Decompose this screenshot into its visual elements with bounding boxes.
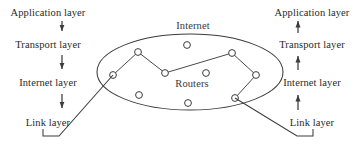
router-node-r4 xyxy=(162,70,169,77)
router-node-r5 xyxy=(203,70,210,77)
router-node-r6 xyxy=(229,50,236,57)
router-link-r7-r8 xyxy=(235,75,256,98)
routers-label: Routers xyxy=(175,78,208,90)
left-layer-4: Link layer xyxy=(26,117,70,129)
internet-label: Internet xyxy=(176,20,209,32)
router-link-r4-r6 xyxy=(165,53,232,73)
right-layer-2: Transport layer xyxy=(279,39,345,51)
router-link-r1-r2 xyxy=(113,52,138,75)
left-layer-1: Application layer xyxy=(11,7,86,19)
router-link-lines xyxy=(113,52,256,98)
network-layer-diagram: Application layerTransport layerInternet… xyxy=(0,0,360,144)
router-nodes xyxy=(110,42,260,107)
router-node-r7 xyxy=(253,72,260,79)
router-node-r3 xyxy=(184,42,191,49)
router-node-r2 xyxy=(135,49,142,56)
router-link-r2-r4 xyxy=(138,52,165,73)
left-layer-2: Transport layer xyxy=(15,39,81,51)
router-node-r9 xyxy=(136,92,143,99)
right-layer-4: Link layer xyxy=(290,117,334,129)
router-link-r6-r7 xyxy=(232,53,256,75)
router-node-r10 xyxy=(185,100,192,107)
left-layer-3: Internet layer xyxy=(19,77,77,89)
right-layer-1: Application layer xyxy=(275,7,350,19)
right-layer-3: Internet layer xyxy=(283,77,341,89)
